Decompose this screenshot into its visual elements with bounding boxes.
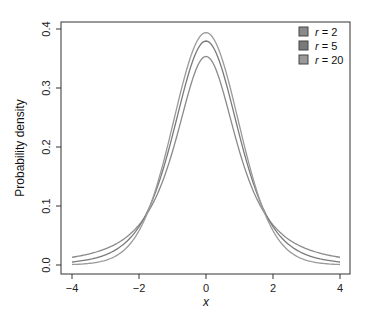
legend-swatch — [299, 41, 308, 50]
y-tick-label: 0.0 — [40, 257, 52, 272]
legend-item: r = 5 — [299, 40, 337, 52]
y-axis: 0.00.10.20.30.4 — [40, 21, 61, 272]
x-axis-title: x — [202, 295, 210, 309]
y-tick-label: 0.4 — [40, 21, 52, 36]
y-axis-title: Probability density — [13, 99, 27, 196]
curve-r-20 — [72, 33, 340, 265]
legend-swatch — [299, 27, 308, 36]
t-distribution-chart: −4−2024 0.00.10.20.30.4 x Probability de… — [0, 0, 368, 319]
legend-label: r = 5 — [315, 40, 337, 52]
y-tick-label: 0.3 — [40, 80, 52, 95]
legend-item: r = 2 — [299, 26, 337, 38]
curve-r-5 — [72, 41, 340, 262]
x-tick-label: 4 — [337, 282, 343, 294]
legend-label: r = 2 — [315, 26, 337, 38]
legend-item: r = 20 — [299, 54, 343, 66]
x-tick-label: 0 — [203, 282, 209, 294]
curve-r-2 — [72, 56, 340, 257]
x-tick-label: −4 — [66, 282, 79, 294]
legend-label: r = 20 — [315, 54, 343, 66]
legend: r = 2r = 5r = 20 — [299, 26, 343, 66]
legend-swatch — [299, 55, 308, 64]
x-tick-label: 2 — [270, 282, 276, 294]
x-axis: −4−2024 — [66, 274, 343, 294]
density-curves — [72, 33, 340, 265]
x-tick-label: −2 — [133, 282, 146, 294]
y-tick-label: 0.2 — [40, 139, 52, 154]
y-tick-label: 0.1 — [40, 198, 52, 213]
